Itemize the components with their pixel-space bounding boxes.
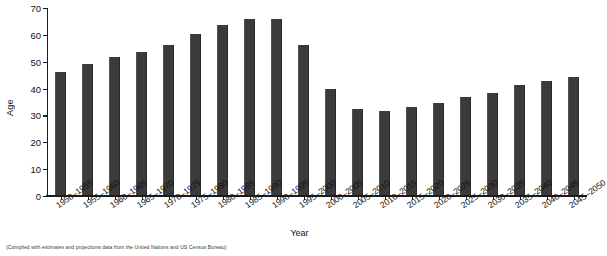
y-axis-tick-label: 40 [30, 83, 41, 94]
bar [109, 57, 119, 195]
y-axis-tick-mark [43, 62, 47, 63]
plot-area: 010203040506070 [47, 8, 587, 196]
bar [136, 52, 146, 196]
y-axis-tick-label: 30 [30, 110, 41, 121]
bar [271, 19, 281, 195]
bar [298, 45, 308, 195]
y-axis-tick-label: 50 [30, 56, 41, 67]
y-axis-title: Age [2, 78, 18, 138]
y-axis-tick-mark [43, 8, 47, 9]
y-axis-tick-mark [43, 169, 47, 170]
bar [82, 64, 92, 196]
bar [55, 72, 65, 196]
bar [163, 45, 173, 195]
y-axis-tick-label: 0 [36, 191, 41, 202]
y-axis-tick-mark [43, 115, 47, 116]
y-axis-tick-mark [43, 196, 47, 197]
y-axis-tick-label: 70 [30, 3, 41, 14]
y-axis-tick-mark [43, 89, 47, 90]
y-axis-tick-label: 20 [30, 137, 41, 148]
x-axis-title: Year [0, 228, 599, 238]
y-axis-line [47, 8, 48, 196]
y-axis-tick-label: 10 [30, 164, 41, 175]
y-axis-tick-mark [43, 35, 47, 36]
bar [217, 25, 227, 196]
y-axis-tick-mark [43, 142, 47, 143]
bar [244, 19, 254, 195]
source-footnote: (Compiled with estimates and projections… [6, 244, 566, 250]
bar [190, 34, 200, 195]
y-axis-tick-label: 60 [30, 29, 41, 40]
